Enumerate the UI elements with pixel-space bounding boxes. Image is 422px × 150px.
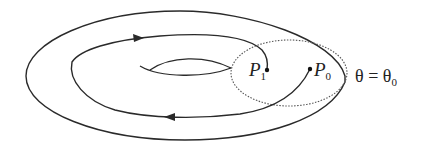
- section-label-eq: =: [364, 66, 383, 86]
- section-label: θ = θ0: [355, 67, 397, 88]
- point-p0-subscript: 0: [326, 70, 332, 82]
- torus-hole-lower: [150, 59, 231, 70]
- point-p1-subscript: 1: [261, 70, 267, 82]
- arrow-right-icon: [133, 34, 144, 42]
- arrow-left-icon: [164, 113, 175, 121]
- point-p0-name: P: [314, 59, 326, 80]
- point-p0-label: P0: [314, 60, 331, 82]
- section-label-rhs-subscript: 0: [391, 76, 397, 88]
- point-p1-name: P: [249, 59, 261, 80]
- section-label-lhs: θ: [355, 66, 364, 86]
- point-p1-label: P1: [249, 60, 266, 82]
- point-p0-dot: [308, 67, 312, 71]
